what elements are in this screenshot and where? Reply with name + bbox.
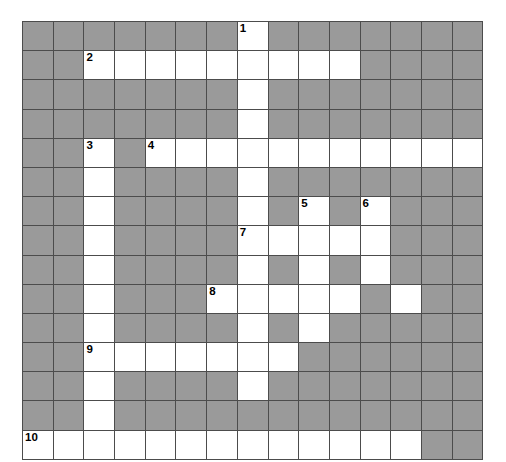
crossword-cell-open[interactable]: [176, 343, 207, 372]
crossword-cell-block: [115, 372, 146, 401]
crossword-cell-block: [207, 80, 238, 109]
crossword-cell-open[interactable]: [207, 343, 238, 372]
crossword-cell-open[interactable]: [268, 138, 299, 167]
crossword-cell-open[interactable]: [299, 313, 330, 342]
crossword-cell-open[interactable]: [207, 430, 238, 459]
crossword-cell-open[interactable]: [268, 343, 299, 372]
crossword-cell-block: [452, 22, 483, 51]
crossword-cell-open[interactable]: [84, 284, 115, 313]
crossword-cell-open[interactable]: [237, 343, 268, 372]
crossword-cell-open[interactable]: [145, 430, 176, 459]
crossword-cell-open[interactable]: [299, 430, 330, 459]
crossword-cell-open[interactable]: [299, 138, 330, 167]
crossword-row: [23, 109, 483, 138]
crossword-cell-open[interactable]: [237, 80, 268, 109]
crossword-cell-block: [23, 372, 54, 401]
crossword-cell-open[interactable]: [84, 197, 115, 226]
crossword-cell-open[interactable]: [329, 284, 360, 313]
crossword-cell-open[interactable]: [299, 284, 330, 313]
crossword-cell-open[interactable]: [237, 372, 268, 401]
crossword-cell-open[interactable]: [84, 167, 115, 196]
crossword-cell-open[interactable]: [145, 51, 176, 80]
clue-number: 1: [240, 22, 246, 34]
crossword-cell-open[interactable]: [329, 51, 360, 80]
crossword-cell-block: [452, 80, 483, 109]
crossword-cell-open[interactable]: [299, 51, 330, 80]
crossword-cell-open[interactable]: 1: [237, 22, 268, 51]
crossword-cell-open[interactable]: [237, 109, 268, 138]
crossword-cell-open[interactable]: 4: [145, 138, 176, 167]
crossword-cell-open[interactable]: [360, 255, 391, 284]
crossword-cell-open[interactable]: [268, 51, 299, 80]
crossword-cell-open[interactable]: [176, 430, 207, 459]
crossword-cell-open[interactable]: [84, 372, 115, 401]
crossword-cell-open[interactable]: [299, 226, 330, 255]
crossword-cell-block: [421, 51, 452, 80]
crossword-cell-block: [391, 372, 422, 401]
crossword-cell-open[interactable]: [268, 430, 299, 459]
crossword-cell-open[interactable]: [84, 255, 115, 284]
crossword-cell-open[interactable]: [176, 138, 207, 167]
crossword-cell-open[interactable]: [237, 255, 268, 284]
crossword-cell-open[interactable]: [84, 226, 115, 255]
crossword-cell-open[interactable]: [84, 430, 115, 459]
crossword-cell-open[interactable]: 6: [360, 197, 391, 226]
crossword-cell-open[interactable]: [452, 138, 483, 167]
crossword-cell-block: [329, 313, 360, 342]
crossword-cell-block: [421, 401, 452, 430]
crossword-cell-open[interactable]: 5: [299, 197, 330, 226]
crossword-cell-open[interactable]: [207, 138, 238, 167]
crossword-cell-open[interactable]: [53, 430, 84, 459]
crossword-cell-block: [115, 80, 146, 109]
crossword-cell-block: [360, 401, 391, 430]
crossword-cell-block: [23, 197, 54, 226]
crossword-cell-open[interactable]: 2: [84, 51, 115, 80]
crossword-cell-block: [421, 343, 452, 372]
crossword-cell-open[interactable]: [360, 430, 391, 459]
crossword-cell-open[interactable]: [391, 284, 422, 313]
crossword-cell-open[interactable]: [237, 138, 268, 167]
crossword-cell-open[interactable]: [237, 197, 268, 226]
crossword-cell-open[interactable]: 10: [23, 430, 54, 459]
crossword-cell-block: [176, 197, 207, 226]
crossword-cell-block: [115, 401, 146, 430]
crossword-cell-open[interactable]: [268, 226, 299, 255]
crossword-cell-open[interactable]: [391, 430, 422, 459]
crossword-cell-open[interactable]: [237, 51, 268, 80]
crossword-cell-open[interactable]: [329, 138, 360, 167]
crossword-cell-block: [115, 226, 146, 255]
crossword-cell-block: [391, 197, 422, 226]
crossword-row: [23, 313, 483, 342]
clue-number: 4: [148, 139, 154, 151]
crossword-cell-open[interactable]: [360, 226, 391, 255]
crossword-cell-open[interactable]: [329, 226, 360, 255]
crossword-cell-open[interactable]: [421, 138, 452, 167]
crossword-cell-block: [360, 22, 391, 51]
crossword-cell-open[interactable]: [237, 430, 268, 459]
crossword-cell-open[interactable]: [329, 430, 360, 459]
crossword-cell-block: [53, 284, 84, 313]
crossword-cell-open[interactable]: [299, 255, 330, 284]
crossword-cell-block: [452, 51, 483, 80]
crossword-cell-open[interactable]: [268, 284, 299, 313]
crossword-cell-block: [268, 80, 299, 109]
crossword-cell-open[interactable]: [84, 401, 115, 430]
crossword-cell-open[interactable]: 7: [237, 226, 268, 255]
crossword-cell-open[interactable]: 8: [207, 284, 238, 313]
crossword-cell-block: [145, 167, 176, 196]
crossword-cell-open[interactable]: [391, 138, 422, 167]
crossword-cell-open[interactable]: [207, 51, 238, 80]
crossword-cell-open[interactable]: [237, 167, 268, 196]
crossword-cell-open[interactable]: [360, 138, 391, 167]
crossword-cell-open[interactable]: [145, 343, 176, 372]
crossword-cell-open[interactable]: [115, 343, 146, 372]
crossword-cell-open[interactable]: [84, 313, 115, 342]
crossword-cell-block: [299, 372, 330, 401]
crossword-cell-open[interactable]: 9: [84, 343, 115, 372]
crossword-cell-open[interactable]: [176, 51, 207, 80]
crossword-cell-open[interactable]: [237, 284, 268, 313]
crossword-cell-open[interactable]: [115, 51, 146, 80]
crossword-cell-open[interactable]: 3: [84, 138, 115, 167]
crossword-cell-open[interactable]: [237, 313, 268, 342]
crossword-cell-open[interactable]: [115, 430, 146, 459]
